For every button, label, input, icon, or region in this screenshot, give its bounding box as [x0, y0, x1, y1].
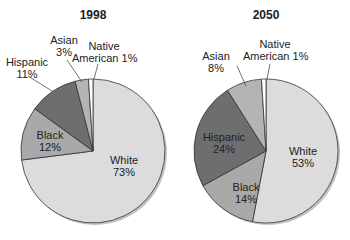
label-value: 11% — [2, 68, 52, 80]
label-text: Native — [243, 38, 307, 50]
label-value: 12% — [30, 141, 70, 153]
label-value: American 1% — [243, 50, 307, 62]
label-1998-hispanic: Hispanic 11% — [2, 56, 52, 80]
label-2050-white: White 53% — [283, 145, 323, 169]
label-text: White — [104, 154, 144, 166]
label-1998-native: Native American 1% — [72, 40, 136, 64]
label-value: American 1% — [72, 52, 136, 64]
label-2050-black: Black 14% — [226, 181, 266, 205]
label-text: Black — [30, 129, 70, 141]
label-text: Black — [226, 181, 266, 193]
label-value: 53% — [283, 157, 323, 169]
label-value: 8% — [196, 62, 236, 74]
label-value: 73% — [104, 166, 144, 178]
label-1998-white: White 73% — [104, 154, 144, 178]
label-text: White — [283, 145, 323, 157]
label-2050-hispanic: Hispanic 24% — [199, 131, 249, 155]
label-text: Hispanic — [199, 131, 249, 143]
label-text: Asian — [196, 50, 236, 62]
label-value: 14% — [226, 193, 266, 205]
label-1998-black: Black 12% — [30, 129, 70, 153]
label-value: 24% — [199, 143, 249, 155]
label-2050-asian: Asian 8% — [196, 50, 236, 74]
label-2050-native: Native American 1% — [243, 38, 307, 62]
label-text: Native — [72, 40, 136, 52]
